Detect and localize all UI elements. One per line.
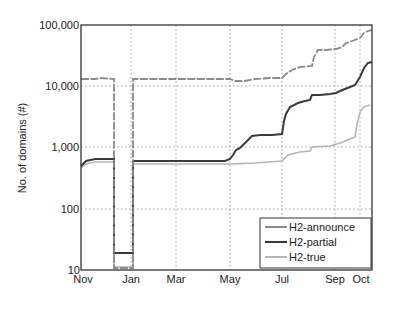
x-tick-jan: Jan	[122, 273, 140, 285]
x-tick-jul: Jul	[275, 273, 289, 285]
x-tick-sep: Sep	[325, 273, 345, 285]
x-axis: Nov Jan Mar May Jul Sep Oct	[73, 273, 369, 285]
x-tick-oct: Oct	[352, 273, 369, 285]
legend-label-true: H2-true	[289, 251, 326, 263]
legend-label-announce: H2-announce	[289, 221, 355, 233]
y-axis-label: No. of domains (#)	[16, 103, 28, 193]
legend-label-partial: H2-partial	[289, 236, 337, 248]
x-tick-mar: Mar	[167, 273, 186, 285]
x-tick-may: May	[220, 273, 241, 285]
legend: H2-announce H2-partial H2-true	[260, 218, 371, 268]
y-tick-100000: 100,000	[39, 19, 79, 31]
y-tick-100: 100	[61, 203, 79, 215]
y-tick-1000: 1,000	[51, 141, 79, 153]
x-tick-nov: Nov	[73, 273, 93, 285]
y-axis: 100,000 10,000 1,000 100 10	[39, 19, 80, 276]
y-tick-10000: 10,000	[45, 80, 79, 92]
line-chart: 100,000 10,000 1,000 100 10 No. of domai…	[0, 0, 394, 311]
